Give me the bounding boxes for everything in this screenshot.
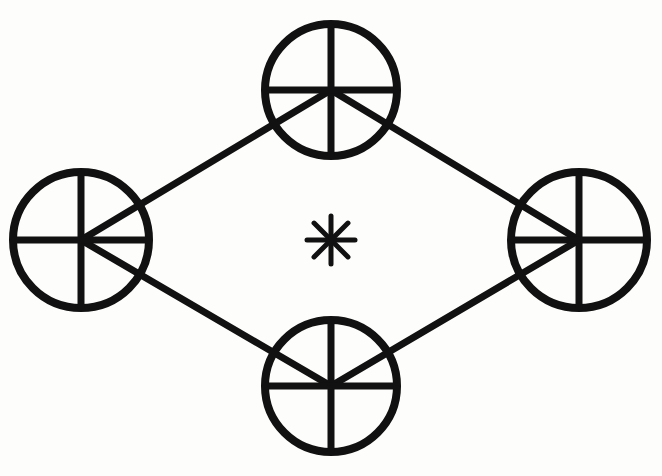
wheel-node-bottom: [265, 320, 397, 452]
connector-line: [81, 240, 331, 386]
connector-line: [331, 90, 579, 240]
wheel-node-top: [265, 24, 397, 156]
connector-line: [81, 90, 331, 240]
connector-line: [331, 240, 579, 386]
wheel-diamond-diagram: [0, 0, 662, 476]
wheel-node-right: [511, 172, 647, 308]
center-asterisk-icon: [307, 216, 355, 264]
wheel-node-left: [13, 172, 149, 308]
